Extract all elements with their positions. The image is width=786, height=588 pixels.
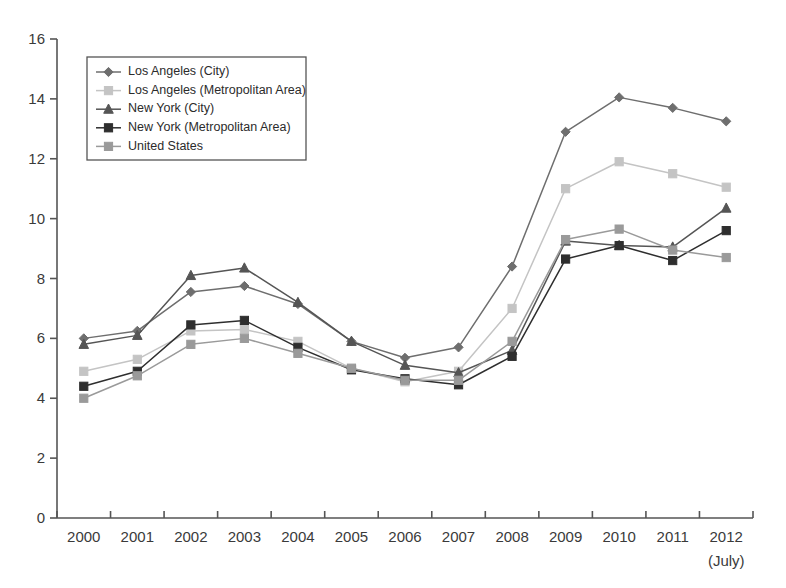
data-point-marker <box>400 360 410 369</box>
data-point-marker <box>454 376 462 384</box>
data-point-marker <box>133 355 141 363</box>
data-point-marker <box>240 316 248 324</box>
y-tick-label: 12 <box>28 150 45 167</box>
y-tick-label: 8 <box>37 270 45 287</box>
data-point-marker <box>80 382 88 390</box>
x-tick-label: 2004 <box>281 528 314 545</box>
y-tick-label: 4 <box>37 389 45 406</box>
data-point-marker <box>187 321 195 329</box>
data-point-marker <box>293 297 303 306</box>
data-point-marker <box>561 127 570 136</box>
data-point-marker <box>722 117 731 126</box>
data-point-marker <box>401 376 409 384</box>
data-point-marker <box>668 103 677 112</box>
x-tick-label: 2007 <box>442 528 475 545</box>
data-point-marker <box>240 281 249 290</box>
x-tick-labels: 2000200120022003200420052006200720082009… <box>67 528 744 569</box>
chart-legend[interactable]: Los Angeles (City)Los Angeles (Metropoli… <box>87 57 306 160</box>
x-tick-label: 2009 <box>549 528 582 545</box>
data-point-marker <box>80 367 88 375</box>
data-point-marker <box>454 343 463 352</box>
data-point-marker <box>562 185 570 193</box>
line-chart: 0246810121416 20002001200220032004200520… <box>0 0 786 588</box>
y-tick-label: 16 <box>28 30 45 47</box>
x-tick-label: 2001 <box>121 528 154 545</box>
data-point-marker <box>104 142 112 150</box>
data-point-marker <box>240 334 248 342</box>
series-line <box>84 162 726 382</box>
data-point-marker <box>347 364 355 372</box>
data-point-marker <box>133 372 141 380</box>
data-point-marker <box>240 325 248 333</box>
x-tick-label: 2010 <box>602 528 635 545</box>
data-point-marker <box>508 337 516 345</box>
data-point-marker <box>722 253 730 261</box>
x-tick-label: 2012 <box>710 528 743 545</box>
y-tick-labels: 0246810121416 <box>28 30 45 526</box>
data-point-marker <box>669 170 677 178</box>
data-point-marker <box>507 262 516 271</box>
series-line <box>84 229 726 398</box>
data-point-marker <box>562 255 570 263</box>
data-point-marker <box>240 263 250 272</box>
data-point-marker <box>615 241 623 249</box>
legend-label: New York (City) <box>128 101 214 115</box>
data-point-marker <box>508 304 516 312</box>
x-tick-label: 2000 <box>67 528 100 545</box>
y-axis <box>50 39 57 518</box>
y-tick-label: 10 <box>28 210 45 227</box>
data-point-marker <box>615 225 623 233</box>
series-3 <box>79 203 731 377</box>
x-tick-label: 2002 <box>174 528 207 545</box>
legend-label: United States <box>128 139 203 153</box>
data-point-marker <box>615 158 623 166</box>
data-point-marker <box>721 203 731 212</box>
legend-label: Los Angeles (City) <box>128 64 229 78</box>
data-point-marker <box>722 227 730 235</box>
y-tick-label: 14 <box>28 90 45 107</box>
legend-item-2[interactable]: Los Angeles (Metropolitan Area) <box>96 83 306 97</box>
y-tick-label: 0 <box>37 509 45 526</box>
data-point-marker <box>615 93 624 102</box>
x-tick-sublabel: (July) <box>708 552 745 569</box>
data-point-marker <box>669 246 677 254</box>
data-point-marker <box>722 183 730 191</box>
series-5 <box>80 225 731 402</box>
data-point-marker <box>187 340 195 348</box>
x-tick-label: 2011 <box>657 528 689 545</box>
data-point-marker <box>104 124 112 132</box>
y-tick-label: 2 <box>37 449 45 466</box>
legend-label: New York (Metropolitan Area) <box>128 120 291 134</box>
x-axis <box>57 511 753 518</box>
data-point-marker <box>669 256 677 264</box>
chart-container: 0246810121416 20002001200220032004200520… <box>0 0 786 588</box>
x-tick-label: 2006 <box>388 528 421 545</box>
x-tick-label: 2003 <box>228 528 261 545</box>
x-tick-label: 2005 <box>335 528 368 545</box>
y-tick-label: 6 <box>37 329 45 346</box>
data-point-marker <box>80 394 88 402</box>
data-point-marker <box>294 349 302 357</box>
data-point-marker <box>508 352 516 360</box>
legend-label: Los Angeles (Metropolitan Area) <box>128 83 306 97</box>
x-tick-label: 2008 <box>495 528 528 545</box>
data-point-marker <box>562 235 570 243</box>
data-point-marker <box>104 87 112 95</box>
